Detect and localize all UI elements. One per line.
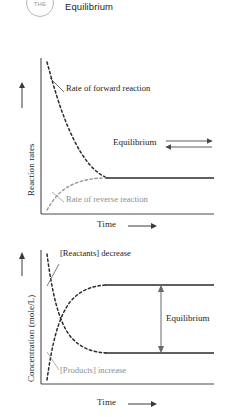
chapter-badge-icon: THE bbox=[26, 0, 54, 17]
chart1-y-axis-label: Reaction rates bbox=[26, 143, 36, 196]
x-axis-arrow-icon bbox=[128, 223, 157, 229]
chapter-badge-label: THE bbox=[27, 1, 53, 7]
annotation-products: [Products] increase bbox=[60, 365, 126, 375]
annotation-reverse-rate: Rate of reverse reaction bbox=[66, 194, 148, 204]
curve-forward-rate bbox=[47, 62, 107, 178]
leader-line-forward bbox=[50, 78, 64, 92]
page-header: THE Equilibrium bbox=[0, 0, 225, 18]
y-axis-arrow-icon bbox=[19, 82, 25, 108]
chart1-x-axis-label: Time bbox=[97, 219, 116, 229]
y-axis-arrow-icon bbox=[19, 252, 25, 276]
annotation-equilibrium-chart1: Equilibrium bbox=[113, 137, 157, 147]
y-axis bbox=[41, 58, 213, 214]
annotation-equilibrium-chart2: Equilibrium bbox=[166, 313, 210, 323]
x-axis-arrow-icon bbox=[128, 401, 157, 407]
chart2-y-axis-label: Concentration (mole/L) bbox=[26, 295, 36, 382]
chart-concentration: Concentration (mole/L) Time [Reactants] … bbox=[0, 236, 225, 417]
annotation-reactants: [Reactants] decrease bbox=[60, 248, 131, 258]
chart2-x-axis-label: Time bbox=[97, 397, 116, 407]
page-title: Equilibrium bbox=[65, 1, 113, 12]
leader-line-reactants bbox=[47, 264, 59, 286]
equilibrium-span-arrow-icon bbox=[158, 285, 164, 354]
annotation-forward-rate: Rate of forward reaction bbox=[66, 83, 150, 93]
curve-products bbox=[47, 254, 106, 353]
equilibrium-double-arrow-icon bbox=[166, 138, 213, 150]
chart-reaction-rates: Reaction rates Time Rate of forward reac… bbox=[0, 44, 225, 230]
